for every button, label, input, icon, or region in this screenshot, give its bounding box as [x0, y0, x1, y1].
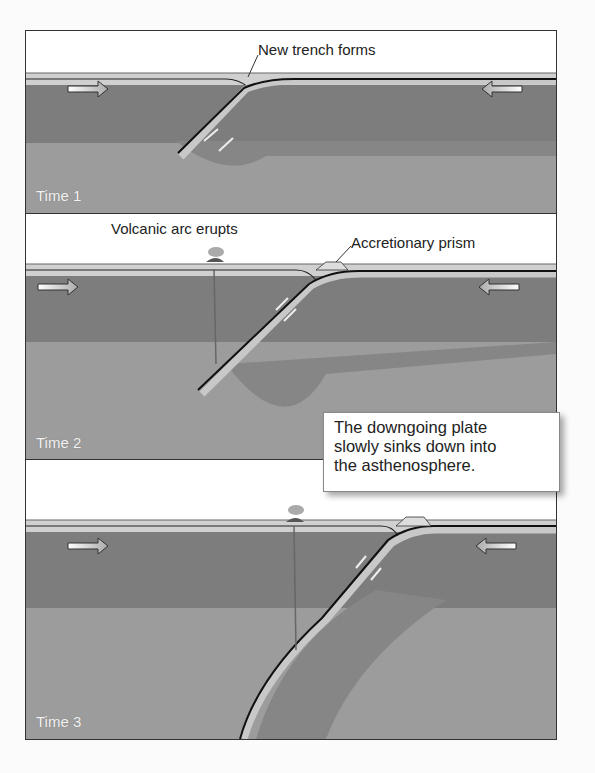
annotation-new-trench: New trench forms — [258, 41, 376, 58]
annotation-volcanic-arc: Volcanic arc erupts — [111, 220, 238, 237]
time-label: Time 2 — [36, 434, 81, 451]
time-label: Time 1 — [36, 187, 81, 204]
volcano-plume-icon — [208, 247, 224, 257]
panel-time-3: Time 3 — [26, 460, 556, 739]
panel-3-illustration — [26, 460, 556, 739]
callout-line: slowly sinks down into — [334, 437, 549, 456]
time-label: Time 3 — [36, 713, 81, 730]
diagram-frame: New trench forms Time 1 Volcanic arc eru… — [25, 30, 557, 740]
callout-line: the asthenosphere. — [334, 456, 549, 475]
annotation-accretionary-prism: Accretionary prism — [351, 234, 475, 251]
callout-line: The downgoing plate — [334, 418, 549, 437]
panel-time-1: New trench forms Time 1 — [26, 31, 556, 213]
volcano-plume-icon — [288, 505, 304, 515]
panel-1-illustration — [26, 31, 556, 213]
callout-box: The downgoing plate slowly sinks down in… — [323, 412, 560, 492]
